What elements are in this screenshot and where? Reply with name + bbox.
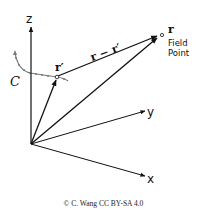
vector-diagram: z y x r′ r r − r′ C Field Point [0,0,207,215]
curve-label: C [10,74,20,89]
field-point-label-line2: Point [168,48,190,58]
x-axis-label: x [147,172,154,186]
z-axis-label: z [26,12,32,26]
field-point-label-line1: Field [168,38,188,48]
y-axis [31,111,145,144]
field-vector-label: r [168,23,174,36]
source-vector-label: r′ [55,61,64,74]
difference-vector-label: r − r′ [89,41,123,64]
source-point [55,75,59,79]
credit-line: © C. Wang CC BY-SA 4.0 [0,199,207,208]
x-axis [31,144,145,176]
r-prime-vector [31,80,56,144]
field-point-marker [160,33,163,36]
y-axis-label: y [147,105,154,119]
